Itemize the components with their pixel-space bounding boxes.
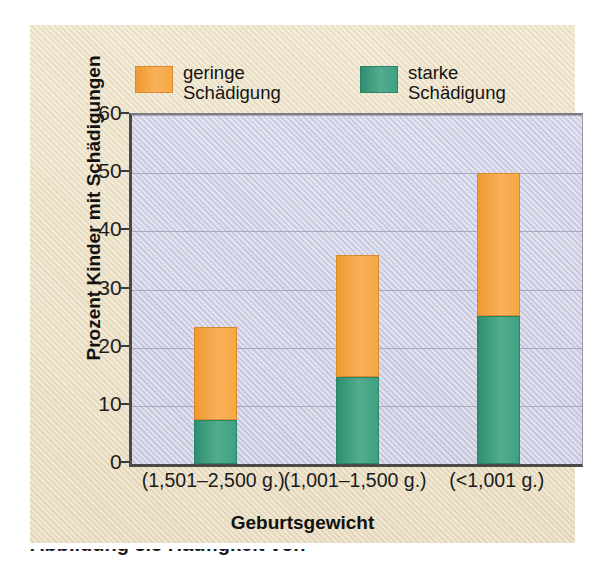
y-tick-mark-10 xyxy=(120,403,129,405)
y-tick-mark-20 xyxy=(120,345,129,347)
figure-caption-text: Abbildung 3.5 Häufigkeit von xyxy=(30,549,306,556)
bar-segment-geringe-3[interactable] xyxy=(477,173,520,316)
legend-item-geringe-schaedigung[interactable]: geringe Schädigung xyxy=(135,63,281,103)
x-axis-title: Geburtsgewicht xyxy=(30,512,575,534)
legend-label-starke: starke Schädigung xyxy=(408,63,506,103)
legend-label-geringe: geringe Schädigung xyxy=(183,63,281,103)
plot-area xyxy=(129,113,583,467)
bar-2[interactable] xyxy=(336,115,379,464)
x-category-label-3: (<1,001 g.) xyxy=(449,469,544,492)
y-tick-label-50: 50 xyxy=(78,159,122,183)
bar-segment-geringe-2[interactable] xyxy=(336,255,379,377)
figure-caption-cropped: Abbildung 3.5 Häufigkeit von xyxy=(30,549,575,568)
y-tick-label-10: 10 xyxy=(78,392,122,416)
y-tick-mark-40 xyxy=(120,228,129,230)
y-tick-label-20: 20 xyxy=(78,334,122,358)
low-damage-swatch xyxy=(135,66,173,93)
y-tick-mark-30 xyxy=(120,287,129,289)
y-tick-label-40: 40 xyxy=(78,217,122,241)
bar-segment-geringe-1[interactable] xyxy=(194,327,237,420)
y-tick-label-60: 60 xyxy=(78,101,122,125)
legend-item-starke-schaedigung[interactable]: starke Schädigung xyxy=(360,63,506,103)
y-tick-mark-60 xyxy=(120,112,129,114)
x-category-label-1: (1,501–2,500 g.) xyxy=(142,469,285,492)
x-category-label-2: (1,001–1,500 g.) xyxy=(283,469,426,492)
y-tick-label-0: 0 xyxy=(78,450,122,474)
y-tick-mark-50 xyxy=(120,170,129,172)
y-tick-label-30: 30 xyxy=(78,276,122,300)
chart-legend: geringe Schädigung starke Schädigung xyxy=(135,63,555,109)
bar-1[interactable] xyxy=(194,115,237,464)
figure-page: geringe Schädigung starke Schädigung Pro… xyxy=(0,0,604,568)
bar-segment-starke-1[interactable] xyxy=(194,420,237,464)
y-tick-mark-0 xyxy=(120,461,129,463)
x-axis-category-labels: (1,501–2,500 g.)(1,001–1,500 g.)(<1,001 … xyxy=(129,469,581,497)
high-damage-swatch xyxy=(360,66,398,93)
figure-panel: geringe Schädigung starke Schädigung Pro… xyxy=(30,25,575,543)
bar-segment-starke-3[interactable] xyxy=(477,316,520,464)
bar-segment-starke-2[interactable] xyxy=(336,377,379,464)
y-axis-tick-labels: 0102030405060 xyxy=(70,113,122,462)
bar-3[interactable] xyxy=(477,115,520,464)
